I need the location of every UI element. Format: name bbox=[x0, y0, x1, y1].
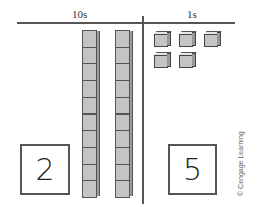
rod-unit bbox=[115, 80, 130, 98]
rod-unit bbox=[115, 114, 130, 132]
ones-column-header: 1s bbox=[187, 8, 197, 20]
rod-unit bbox=[82, 147, 97, 165]
place-value-divider-line bbox=[142, 16, 144, 204]
rod-unit bbox=[115, 30, 130, 48]
ones-cube-2 bbox=[179, 31, 196, 47]
tens-rod-2 bbox=[115, 30, 133, 197]
ones-digit-box: 5 bbox=[168, 144, 217, 195]
rod-unit bbox=[82, 97, 97, 115]
copyright-credit: © Cengage Learning bbox=[237, 131, 244, 196]
tens-rod-1 bbox=[82, 30, 100, 197]
ones-cube-4 bbox=[154, 52, 171, 68]
rod-unit bbox=[82, 30, 97, 48]
tens-digit: 2 bbox=[35, 152, 54, 187]
rod-unit bbox=[82, 164, 97, 182]
rod-unit bbox=[115, 147, 130, 165]
rod-unit bbox=[82, 47, 97, 65]
rod-unit bbox=[82, 63, 97, 81]
rod-unit bbox=[82, 114, 97, 132]
ones-cube-3 bbox=[204, 31, 221, 47]
rod-unit bbox=[115, 47, 130, 65]
ones-cube-1 bbox=[154, 31, 171, 47]
tens-column-header: 10s bbox=[72, 8, 87, 20]
rod-unit bbox=[115, 164, 130, 182]
ones-cube-5 bbox=[179, 52, 196, 68]
rod-unit bbox=[115, 130, 130, 148]
rod-unit bbox=[115, 63, 130, 81]
rod-unit bbox=[82, 80, 97, 98]
tens-digit-box: 2 bbox=[20, 144, 70, 195]
rod-unit bbox=[115, 180, 130, 198]
rod-unit bbox=[115, 97, 130, 115]
place-value-horizontal-line bbox=[17, 22, 235, 24]
rod-unit bbox=[82, 180, 97, 198]
rod-unit bbox=[82, 130, 97, 148]
ones-digit: 5 bbox=[183, 152, 202, 187]
